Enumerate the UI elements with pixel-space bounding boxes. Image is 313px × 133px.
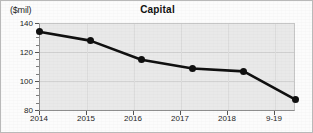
ytick-label-140: 140 [7, 19, 33, 28]
chart-title: Capital [1, 4, 313, 15]
data-point-2015 [87, 37, 94, 44]
ytick-minor [36, 95, 39, 96]
ytick-mark-120 [35, 52, 39, 53]
chart-figure: Capital ($mil) 140 120 100 80 2014 2015 … [0, 0, 313, 133]
ytick-minor [36, 88, 39, 89]
y-axis-unit-label: ($mil) [10, 5, 31, 15]
xtick-label-2016: 2016 [113, 114, 153, 123]
ytick-minor [36, 66, 39, 67]
gridline-2016 [134, 24, 135, 110]
xtick-label-2018: 2018 [207, 114, 247, 123]
plot-area [39, 23, 295, 111]
xtick-label-9-19: 9-19 [254, 114, 294, 123]
data-point-2017 [189, 65, 196, 72]
gridline-100 [40, 81, 294, 82]
xtick-label-2014: 2014 [19, 114, 59, 123]
ytick-minor [36, 37, 39, 38]
ytick-mark-100 [35, 81, 39, 82]
ytick-minor [36, 103, 39, 104]
gridline-9-19 [275, 24, 276, 110]
data-point-2016 [138, 56, 145, 63]
data-point-2014 [36, 28, 43, 35]
gridline-120 [40, 52, 294, 53]
ytick-minor [36, 45, 39, 46]
ytick-label-120: 120 [7, 48, 33, 57]
xtick-label-2015: 2015 [66, 114, 106, 123]
ytick-minor [36, 59, 39, 60]
gridline-2018 [228, 24, 229, 110]
ytick-label-100: 100 [7, 77, 33, 86]
data-point-9-19 [292, 96, 299, 103]
gridline-2017 [181, 24, 182, 110]
ytick-minor [36, 74, 39, 75]
ytick-mark-140 [35, 23, 39, 24]
xtick-label-2017: 2017 [160, 114, 200, 123]
